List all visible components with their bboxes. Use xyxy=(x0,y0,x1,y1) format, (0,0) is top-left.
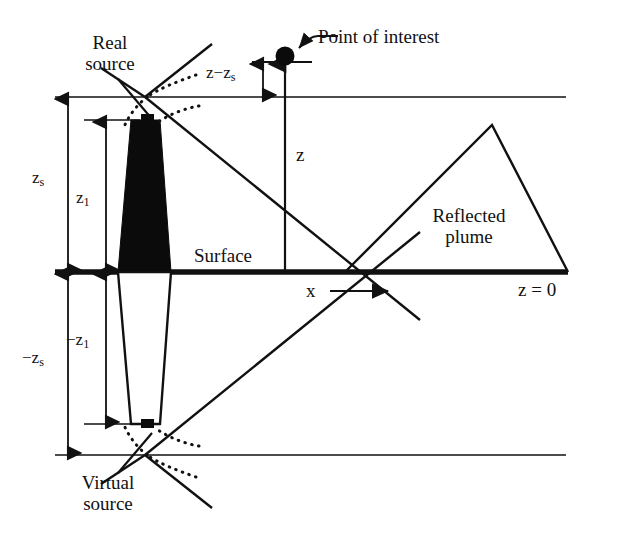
real-source-marker xyxy=(141,114,154,123)
z-equals-zero-label: z = 0 xyxy=(518,279,556,300)
z-minus-zs-label-sub: s xyxy=(231,70,236,84)
z-minus-zs-label: z−zs xyxy=(206,63,235,85)
virtual-plume-shape xyxy=(118,272,171,424)
figure-root: Real source Virtual source Point of inte… xyxy=(0,0,618,541)
surface-label: Surface xyxy=(194,245,252,266)
virtual-source-marker xyxy=(141,419,154,428)
point-of-interest-label: Point of interest xyxy=(318,26,439,47)
diagram-canvas xyxy=(0,0,618,541)
reflected-plume-triangle xyxy=(345,125,568,272)
z1-label-sub: 1 xyxy=(84,195,90,209)
x-axis-label: x xyxy=(306,280,316,301)
z-axis-label: z xyxy=(296,144,304,165)
reflected-plume-label: Reflected plume xyxy=(404,205,534,248)
neg-z1-label-sub: 1 xyxy=(83,337,89,351)
z-minus-zs-dimension xyxy=(252,62,312,95)
real-source-label-line2: source xyxy=(85,53,135,74)
neg-zs-label-sub: s xyxy=(39,355,44,369)
point-of-interest-dot xyxy=(276,47,295,66)
real-source-label-line1: Real xyxy=(93,32,128,53)
virtual-source-label-line1: Virtual xyxy=(82,472,135,493)
virtual-source-label-line2: source xyxy=(83,493,133,514)
reflected-plume-label-line2: plume xyxy=(445,226,493,247)
neg-z1-label: −z1 xyxy=(66,330,89,352)
reflected-plume-label-line1: Reflected xyxy=(433,205,506,226)
virtual-source-label: Virtual source xyxy=(48,472,168,515)
real-source-label: Real source xyxy=(56,32,164,75)
zs-label-sub: s xyxy=(40,175,45,189)
real-plume-shape xyxy=(118,120,171,272)
neg-zs-label: −zs xyxy=(22,348,44,370)
z1-label: z1 xyxy=(76,188,90,210)
zs-label: zs xyxy=(32,168,44,190)
